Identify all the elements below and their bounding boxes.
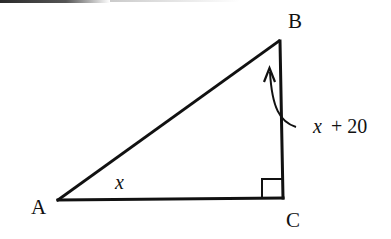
- angle-a-label: x: [114, 171, 124, 193]
- vertex-label-a: A: [31, 195, 47, 219]
- triangle-abc: [58, 41, 283, 200]
- right-angle-marker: [262, 179, 283, 198]
- angle-b-variable: x: [312, 115, 322, 137]
- vertex-label-c: C: [286, 208, 300, 232]
- vertex-label-b: B: [288, 9, 302, 33]
- side-ab: [58, 41, 279, 200]
- triangle-diagram: A B C x x + 20: [0, 0, 391, 239]
- side-ac: [58, 198, 283, 200]
- angle-b-label: x + 20: [312, 115, 367, 137]
- angle-b-offset: + 20: [331, 115, 367, 137]
